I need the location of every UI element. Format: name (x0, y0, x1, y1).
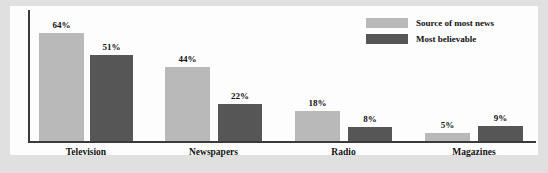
bar-magazines-most-believable (478, 126, 523, 141)
bar-value-newspapers-source-of-most-news: 44% (165, 54, 210, 64)
bar-radio-most-believable (348, 127, 392, 141)
bar-television-most-believable (90, 55, 133, 141)
bar-value-television-most-believable: 51% (90, 42, 133, 52)
bar-newspapers-most-believable (218, 104, 262, 141)
bar-magazines-source-of-most-news (425, 133, 470, 141)
category-label-newspapers: Newspapers (165, 147, 262, 157)
legend-swatch-icon-source-of-most-news (366, 18, 408, 28)
y-axis-line (28, 10, 30, 142)
legend: Source of most news Most believable (366, 16, 494, 48)
bar-value-radio-most-believable: 8% (348, 114, 392, 124)
category-label-radio: Radio (295, 147, 392, 157)
bar-television-source-of-most-news (39, 33, 84, 141)
bar-value-television-source-of-most-news: 64% (39, 20, 84, 30)
legend-label-source-of-most-news: Source of most news (416, 18, 494, 28)
legend-label-most-believable: Most believable (416, 34, 476, 44)
legend-item-most-believable: Most believable (366, 32, 494, 45)
x-axis-line (28, 141, 536, 143)
bar-chart-figure: 64% 51% Television 44% 22% Newspapers 18… (0, 0, 548, 173)
category-label-television: Television (39, 147, 133, 157)
bar-radio-source-of-most-news (295, 111, 340, 141)
bar-value-magazines-source-of-most-news: 5% (425, 120, 470, 130)
bar-value-magazines-most-believable: 9% (478, 113, 523, 123)
bar-newspapers-source-of-most-news (165, 67, 210, 141)
bar-value-newspapers-most-believable: 22% (218, 91, 262, 101)
bar-value-radio-source-of-most-news: 18% (295, 98, 340, 108)
legend-swatch-icon-most-believable (366, 34, 408, 44)
category-label-magazines: Magazines (425, 147, 523, 157)
legend-item-source-of-most-news: Source of most news (366, 16, 494, 29)
